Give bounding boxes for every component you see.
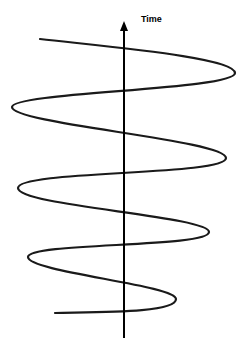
time-helix-diagram	[0, 0, 251, 357]
time-axis-label: Time	[141, 14, 162, 24]
arrow-up-icon	[120, 21, 128, 31]
